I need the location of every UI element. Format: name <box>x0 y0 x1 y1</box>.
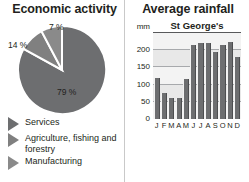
legend-item-label: Services <box>25 116 60 128</box>
y-axis-tick-label: 0 <box>146 115 150 123</box>
triangle-marker-icon <box>8 133 19 147</box>
bar-slot <box>168 33 175 119</box>
bar-j-0 <box>154 78 160 119</box>
bar-f-1 <box>161 93 167 119</box>
x-axis-tick-label: N <box>226 120 233 132</box>
pie-data-label-agriculture: 14 % <box>8 40 27 50</box>
bar-n-10 <box>227 42 233 119</box>
y-axis-tick-label: 200 <box>137 46 150 54</box>
series-name-label: St George's <box>153 19 241 33</box>
legend-item-services: Services <box>4 116 125 131</box>
x-axis-tick-label: J <box>153 120 160 132</box>
pie-chart-svg <box>14 22 110 118</box>
legend-item-label: Agriculture, fishing and forestry <box>25 132 125 154</box>
y-axis-tick-label: 100 <box>137 81 150 89</box>
x-axis-tick-label: J <box>197 120 204 132</box>
x-axis-tick-label: A <box>204 120 211 132</box>
bar-slot <box>219 33 226 119</box>
bar-slot <box>197 33 204 119</box>
legend-item-label: Manufacturing <box>25 155 82 167</box>
bar-series <box>153 33 241 119</box>
bar-chart-x-axis: JFMAMJJASOND <box>153 120 241 132</box>
bar-chart-plot-area: St George's <box>153 19 241 119</box>
bar-m-2 <box>168 98 174 119</box>
legend-item-manufacturing: Manufacturing <box>4 155 125 170</box>
x-axis-tick-label: F <box>160 120 167 132</box>
y-axis-unit-label: mm <box>137 22 150 31</box>
bar-slot <box>153 33 160 119</box>
y-axis-tick-label: 150 <box>137 63 150 71</box>
bar-chart-y-axis: mm 050100150200 <box>125 19 153 119</box>
bar-slot <box>226 33 233 119</box>
y-axis-tick-label: 50 <box>141 98 150 106</box>
bar-j-6 <box>197 43 203 119</box>
economic-activity-chart-panel: Economic activity 79 % 14 % 7 % Services… <box>0 0 125 182</box>
bar-o-9 <box>219 45 225 119</box>
bar-a-7 <box>205 43 211 119</box>
bar-slot <box>234 33 241 119</box>
pie-chart-title: Economic activity <box>0 2 125 16</box>
x-axis-tick-label: A <box>175 120 182 132</box>
bar-slot <box>190 33 197 119</box>
x-axis-tick-label: S <box>212 120 219 132</box>
average-rainfall-chart-panel: Average rainfall mm 050100150200 St Geor… <box>125 0 249 182</box>
bar-slot <box>175 33 182 119</box>
bar-s-8 <box>212 52 218 119</box>
bar-d-11 <box>234 57 240 119</box>
x-axis-tick-label: M <box>182 120 189 132</box>
pie-data-label-services: 79 % <box>57 87 76 97</box>
bar-j-5 <box>190 45 196 119</box>
pie-chart-legend: Services Agriculture, fishing and forest… <box>4 116 125 171</box>
x-axis-tick-label: J <box>190 120 197 132</box>
bar-slot <box>182 33 189 119</box>
pie-chart: 79 % 14 % 7 % <box>0 17 125 117</box>
bar-slot <box>204 33 211 119</box>
plot-inner <box>153 33 241 119</box>
pie-data-label-manufacturing: 7 % <box>49 22 64 32</box>
triangle-marker-icon <box>8 156 19 170</box>
x-axis-tick-label: D <box>234 120 241 132</box>
legend-item-agriculture: Agriculture, fishing and forestry <box>4 132 125 154</box>
bar-slot <box>160 33 167 119</box>
bar-chart-title: Average rainfall <box>125 2 249 16</box>
triangle-marker-icon <box>8 117 19 131</box>
bar-slot <box>212 33 219 119</box>
x-axis-tick-label: M <box>168 120 175 132</box>
x-axis-tick-label: O <box>219 120 226 132</box>
bar-m-4 <box>183 79 189 119</box>
bar-a-3 <box>176 98 182 119</box>
